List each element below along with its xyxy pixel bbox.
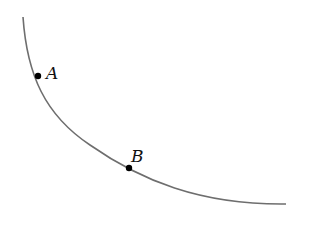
point-a-label: A: [44, 63, 58, 83]
curve: [23, 17, 286, 204]
diagram-canvas: A B: [0, 0, 313, 229]
point-a: [35, 73, 41, 79]
point-b-label: B: [130, 146, 144, 166]
